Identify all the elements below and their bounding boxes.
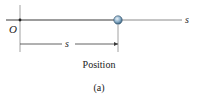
caption: Position [83,59,116,70]
particle-icon [114,16,122,24]
dimension-label: s [65,38,69,49]
origin-label: O [9,23,17,35]
position-diagram: s O s Position (a) [0,0,198,99]
subfigure-label: (a) [93,82,104,94]
origin-point [19,19,22,22]
axis-label: s [185,14,189,25]
